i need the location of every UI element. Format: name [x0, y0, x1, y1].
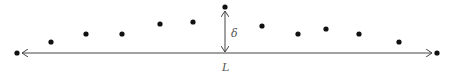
deflection-label: δ [231, 27, 238, 40]
point-p2 [83, 31, 88, 36]
point-p8 [323, 26, 328, 31]
point-end-left [14, 50, 19, 55]
point-p1 [48, 39, 53, 44]
length-label: L [221, 61, 229, 74]
point-p7 [295, 31, 300, 36]
point-p3 [119, 31, 124, 36]
sagitta-diagram: L δ [0, 0, 452, 79]
point-p10 [396, 39, 401, 44]
point-end-right [434, 50, 439, 55]
point-p6 [259, 23, 264, 28]
point-p5 [190, 19, 195, 24]
points-group [14, 4, 439, 55]
point-p4 [157, 21, 162, 26]
point-peak [222, 4, 227, 9]
point-p9 [356, 31, 361, 36]
